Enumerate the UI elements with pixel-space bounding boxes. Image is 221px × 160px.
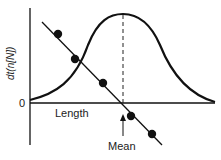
data-point [99,79,107,87]
data-point [148,130,156,138]
chart: 0 Length Mean dt(n[N]) [0,0,221,160]
data-point [127,112,135,120]
x-axis-label: Length [55,107,89,119]
data-point [71,55,79,63]
y-zero-tick-label: 0 [19,97,25,109]
mean-label: Mean [108,140,136,152]
mean-arrow-icon [120,114,126,121]
data-points [54,30,156,138]
y-axis-label: dt(n[N]) [5,47,16,80]
chart-canvas: 0 Length Mean dt(n[N]) [0,0,221,160]
data-point [54,30,62,38]
